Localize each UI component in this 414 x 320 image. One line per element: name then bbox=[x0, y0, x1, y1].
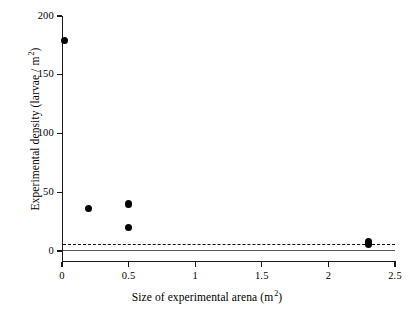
x-tick-label: 1 bbox=[175, 270, 215, 281]
x-tick-mark bbox=[261, 262, 262, 267]
data-point bbox=[125, 200, 133, 208]
x-tick-label: 0 bbox=[42, 270, 82, 281]
x-tick-label: 1.5 bbox=[242, 270, 282, 281]
scatter-plot-figure: 050100150200 00.511.522.5 Size of experi… bbox=[0, 0, 414, 320]
data-point bbox=[365, 240, 373, 248]
plot-area bbox=[62, 16, 395, 251]
x-tick-label: 2.5 bbox=[375, 270, 414, 281]
x-tick-mark bbox=[394, 262, 395, 267]
y-axis-title: Experimental density (larvae / m2) bbox=[29, 9, 41, 249]
x-axis-title-tail: ) bbox=[278, 291, 282, 303]
x-tick-label: 2 bbox=[308, 270, 348, 281]
x-axis-title: Size of experimental arena (m2) bbox=[0, 291, 414, 303]
data-point bbox=[61, 37, 69, 45]
y-axis-title-superscript: 2 bbox=[27, 51, 36, 56]
x-tick-label: 0.5 bbox=[109, 270, 149, 281]
data-point bbox=[125, 224, 133, 232]
x-axis-title-text: Size of experimental arena (m bbox=[132, 291, 273, 303]
x-tick-mark bbox=[61, 262, 62, 267]
data-point bbox=[85, 205, 93, 213]
x-tick-mark bbox=[328, 262, 329, 267]
x-axis-line bbox=[62, 261, 396, 262]
x-tick-mark bbox=[128, 262, 129, 267]
y-axis-title-text: Experimental density (larvae / m bbox=[29, 57, 41, 211]
x-tick-mark bbox=[195, 262, 196, 267]
y-axis-title-tail: ) bbox=[29, 48, 41, 52]
